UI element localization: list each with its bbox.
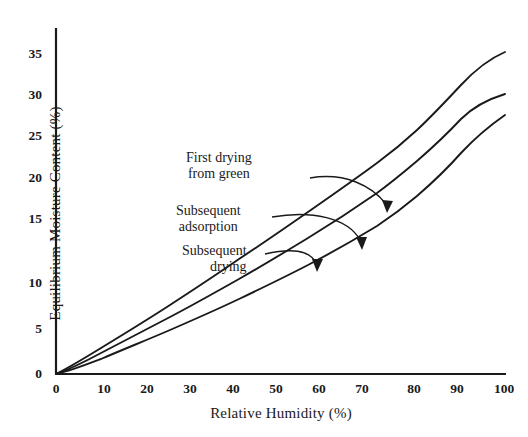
annotation-arrowhead-subsequent-drying (312, 259, 323, 272)
annotation-subsequent-drying-line1: Subsequent (182, 243, 247, 258)
chart-plot-area (0, 0, 528, 437)
x-tick-label-30: 30 (172, 381, 208, 397)
annotation-subsequent-adsorption-line1: Subsequent (176, 203, 241, 218)
x-tick-label-100: 100 (486, 381, 522, 397)
x-tick-label-40: 40 (215, 381, 251, 397)
x-tick-label-60: 60 (301, 381, 337, 397)
annotation-first-drying: First drying from green (186, 150, 252, 182)
annotation-arrowhead-first-drying (382, 200, 393, 213)
annotation-subsequent-adsorption: Subsequent adsorption (176, 203, 241, 235)
x-tick-label-10: 10 (86, 381, 122, 397)
annotation-subsequent-drying-line2: drying (182, 259, 247, 275)
x-tick-label-70: 70 (344, 381, 380, 397)
annotation-first-drying-line1: First drying (186, 150, 252, 165)
y-tick-label-35: 35 (12, 46, 42, 62)
annotation-subsequent-adsorption-line2: adsorption (176, 219, 241, 235)
x-tick-label-50: 50 (258, 381, 294, 397)
x-tick-label-20: 20 (129, 381, 165, 397)
x-tick-label-90: 90 (439, 381, 475, 397)
series-line-subsequent-adsorption (56, 94, 505, 374)
y-tick-label-5: 5 (12, 321, 42, 337)
series-line-first-drying (56, 52, 505, 374)
y-tick-label-25: 25 (12, 128, 42, 144)
y-tick-label-20: 20 (12, 170, 42, 186)
annotation-arrowhead-subsequent-adsorption (356, 237, 367, 250)
x-axis-title: Relative Humidity (%) (56, 405, 506, 422)
x-tick-label-80: 80 (396, 381, 432, 397)
y-tick-label-30: 30 (12, 87, 42, 103)
y-tick-label-10: 10 (12, 275, 42, 291)
y-tick-label-0: 0 (12, 366, 42, 382)
annotation-subsequent-drying: Subsequent drying (182, 243, 247, 275)
y-axis-title: Equilibrium Moisture Content (%) (47, 64, 64, 364)
chart-container: Equilibrium Moisture Content (%) Relativ… (0, 0, 528, 437)
annotation-leader-first-drying (310, 177, 386, 204)
x-tick-label-0: 0 (38, 381, 74, 397)
y-tick-label-15: 15 (12, 211, 42, 227)
annotation-first-drying-line2: from green (186, 166, 252, 182)
